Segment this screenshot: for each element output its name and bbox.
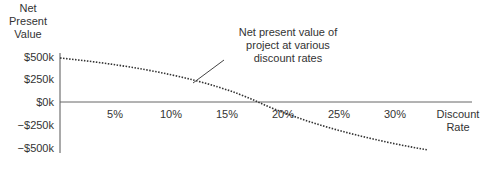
x-tick-label: 25%: [319, 108, 359, 121]
x-tick-label: 30%: [375, 108, 415, 121]
y-tick-label: −$250k: [0, 119, 54, 132]
y-axis-title-line: Net: [6, 2, 50, 15]
x-tick-label: 5%: [95, 108, 135, 121]
npv-curve: [60, 58, 428, 150]
y-axis-title: Net Present Value: [6, 2, 50, 41]
y-tick-label: $500k: [0, 51, 54, 64]
annotation-line: discount rates: [228, 52, 348, 65]
x-tick-label: 15%: [207, 108, 247, 121]
annotation-line: project at various: [228, 39, 348, 52]
curve-annotation: Net present value of project at various …: [228, 26, 348, 65]
y-tick-label: $250k: [0, 73, 54, 86]
x-tick-label: 10%: [151, 108, 191, 121]
y-tick-label: −$500k: [0, 142, 54, 155]
x-axis-title: Discount Rate: [430, 108, 486, 134]
y-axis-title-line: Value: [6, 28, 50, 41]
annotation-leader-line: [193, 60, 224, 83]
annotation-line: Net present value of: [228, 26, 348, 39]
x-axis-title-line: Rate: [430, 121, 486, 134]
y-tick-label: $0k: [0, 96, 54, 109]
y-axis-title-line: Present: [6, 15, 50, 28]
x-tick-label: 20%: [263, 108, 303, 121]
x-axis-title-line: Discount: [430, 108, 486, 121]
